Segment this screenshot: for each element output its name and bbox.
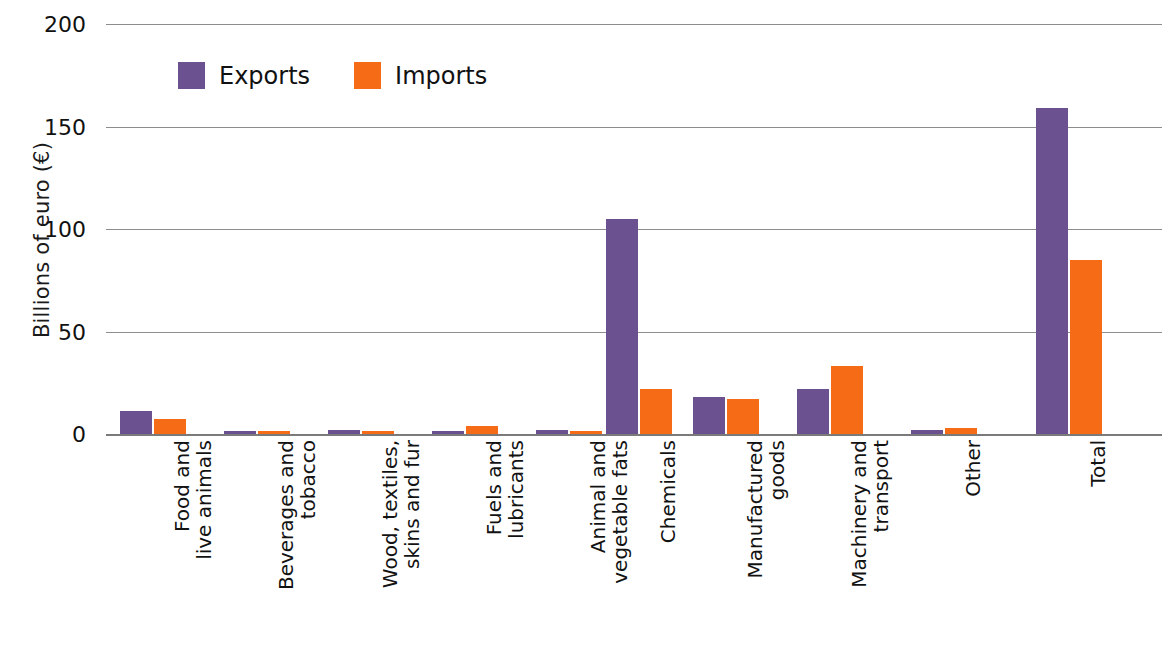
- bar-imports: [640, 389, 672, 434]
- bar-exports: [536, 430, 568, 434]
- bar-imports: [154, 419, 186, 434]
- x-axis-tick-label: Machinery and transport: [848, 440, 894, 660]
- legend-item: Imports: [354, 62, 487, 89]
- y-axis-tick-label: 100: [0, 217, 86, 242]
- legend-label: Exports: [219, 64, 310, 88]
- bar-imports: [362, 431, 394, 434]
- x-axis-tick-label: Food and live animals: [171, 440, 217, 660]
- chart-legend: ExportsImports: [178, 62, 487, 89]
- legend-item: Exports: [178, 62, 310, 89]
- x-axis-tick-label: Chemicals: [657, 440, 703, 660]
- bar-exports: [120, 411, 152, 434]
- x-axis-tick-label: Wood, textiles, skins and fur: [379, 440, 425, 660]
- bar-group: [1036, 24, 1102, 434]
- bar-exports: [224, 431, 256, 434]
- bar-imports: [727, 399, 759, 434]
- legend-swatch-icon: [178, 62, 205, 89]
- x-axis-tick-label: Fuels and lubricants: [483, 440, 529, 660]
- x-axis-tick-label: Other: [962, 440, 1008, 660]
- bar-imports: [1070, 260, 1102, 434]
- bar-chart: Billions of euro (€) 050100150200 Food a…: [0, 0, 1170, 663]
- bar-exports: [432, 431, 464, 434]
- x-axis-tick-label: Beverages and tobacco: [275, 440, 321, 660]
- bar-group: [911, 24, 977, 434]
- bar-group: [120, 24, 186, 434]
- legend-swatch-icon: [354, 62, 381, 89]
- bar-imports: [570, 431, 602, 434]
- axis-baseline: [106, 434, 1162, 436]
- bar-exports: [693, 397, 725, 434]
- y-axis-tick-label: 50: [0, 319, 86, 344]
- x-axis-tick-label: Total: [1087, 440, 1133, 660]
- bar-exports: [606, 219, 638, 434]
- bar-imports: [945, 428, 977, 434]
- x-axis-tick-labels: Food and live animalsBeverages and tobac…: [106, 440, 1162, 660]
- bar-group: [536, 24, 602, 434]
- bar-exports: [328, 430, 360, 434]
- bar-imports: [466, 426, 498, 434]
- x-axis-tick-label: Animal and vegetable fats: [587, 440, 633, 660]
- bar-group: [606, 24, 672, 434]
- legend-label: Imports: [395, 64, 487, 88]
- x-axis-tick-label: Manufactured goods: [744, 440, 790, 660]
- y-axis-tick-label: 200: [0, 12, 86, 37]
- bar-group: [693, 24, 759, 434]
- bar-exports: [797, 389, 829, 434]
- bar-imports: [258, 431, 290, 434]
- bar-exports: [1036, 108, 1068, 434]
- y-axis-tick-label: 150: [0, 114, 86, 139]
- bar-group: [797, 24, 863, 434]
- y-axis-tick-label: 0: [0, 422, 86, 447]
- bar-exports: [911, 430, 943, 434]
- bar-imports: [831, 366, 863, 434]
